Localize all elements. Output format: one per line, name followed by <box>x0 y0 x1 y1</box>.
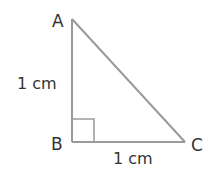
side-ac <box>72 19 185 142</box>
vertex-label-c: C <box>191 135 203 155</box>
triangle-diagram: A B C 1 cm 1 cm <box>0 0 217 179</box>
vertex-label-a: A <box>52 11 64 31</box>
triangle-figure: A B C 1 cm 1 cm <box>0 0 217 179</box>
side-label-bc: 1 cm <box>113 149 153 168</box>
vertex-label-b: B <box>51 134 63 154</box>
side-label-ab: 1 cm <box>17 74 57 93</box>
right-angle-marker <box>72 119 94 142</box>
